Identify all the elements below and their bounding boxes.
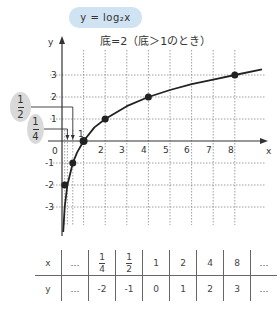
table-cell: -2 <box>89 276 116 302</box>
x-tick-6: 6 <box>184 145 190 155</box>
table-cell: … <box>62 276 89 302</box>
x-axis-label: x <box>266 146 272 156</box>
y-tick-2: 2 <box>51 92 57 102</box>
y-axis-arrow-icon <box>59 36 65 44</box>
table-cell: … <box>251 276 278 302</box>
table-cell: 1 <box>170 276 197 302</box>
x-tick-2: 2 <box>98 145 104 155</box>
x-tick-5: 5 <box>163 145 169 155</box>
origin-label: 0 <box>52 146 58 156</box>
arrow-quarter-icon <box>65 135 69 140</box>
x-tick-1: 1 <box>78 129 84 139</box>
y-tick-1: 1 <box>51 114 57 124</box>
table-row-y: y … -2 -1 0 1 2 3 … <box>35 276 277 302</box>
y-tick-neg2: -2 <box>45 180 54 190</box>
table-cell: 0 <box>143 276 170 302</box>
callout-half-num: 1 <box>17 95 23 105</box>
table-cell: … <box>62 250 89 276</box>
table-cell: 2 <box>170 250 197 276</box>
x-tick-4: 4 <box>141 145 147 155</box>
table-cell: 12 <box>116 250 143 276</box>
y-axis-label: y <box>48 37 54 47</box>
callout-half-den: 2 <box>17 110 23 120</box>
data-points <box>61 72 238 189</box>
arrow-half-icon <box>71 135 75 140</box>
callout-quarter-num: 1 <box>32 117 38 127</box>
value-table: x … 14 12 1 2 4 8 … y … -2 -1 0 1 2 3 … <box>35 250 277 301</box>
x-tick-3: 3 <box>119 145 125 155</box>
table-cell: 8 <box>224 250 251 276</box>
row-header-y: y <box>35 276 62 302</box>
x-axis-arrow-icon <box>260 138 268 144</box>
callout-quarter-den: 4 <box>32 132 38 142</box>
table-cell: 2 <box>197 276 224 302</box>
x-tick-7: 7 <box>206 145 212 155</box>
table-cell: 3 <box>224 276 251 302</box>
table-cell: … <box>251 250 278 276</box>
y-tick-neg1: -1 <box>45 158 54 168</box>
callout-quarter: 1 4 <box>27 114 44 144</box>
row-header-x: x <box>35 250 62 276</box>
table-cell: -1 <box>116 276 143 302</box>
table-row-x: x … 14 12 1 2 4 8 … <box>35 250 277 276</box>
y-tick-3: 3 <box>51 70 57 80</box>
table-cell: 1 <box>143 250 170 276</box>
table-cell: 4 <box>197 250 224 276</box>
x-tick-8: 8 <box>228 145 234 155</box>
callout-half: 1 2 <box>10 92 31 122</box>
y-tick-neg3: -3 <box>45 202 54 212</box>
table-cell: 14 <box>89 250 116 276</box>
